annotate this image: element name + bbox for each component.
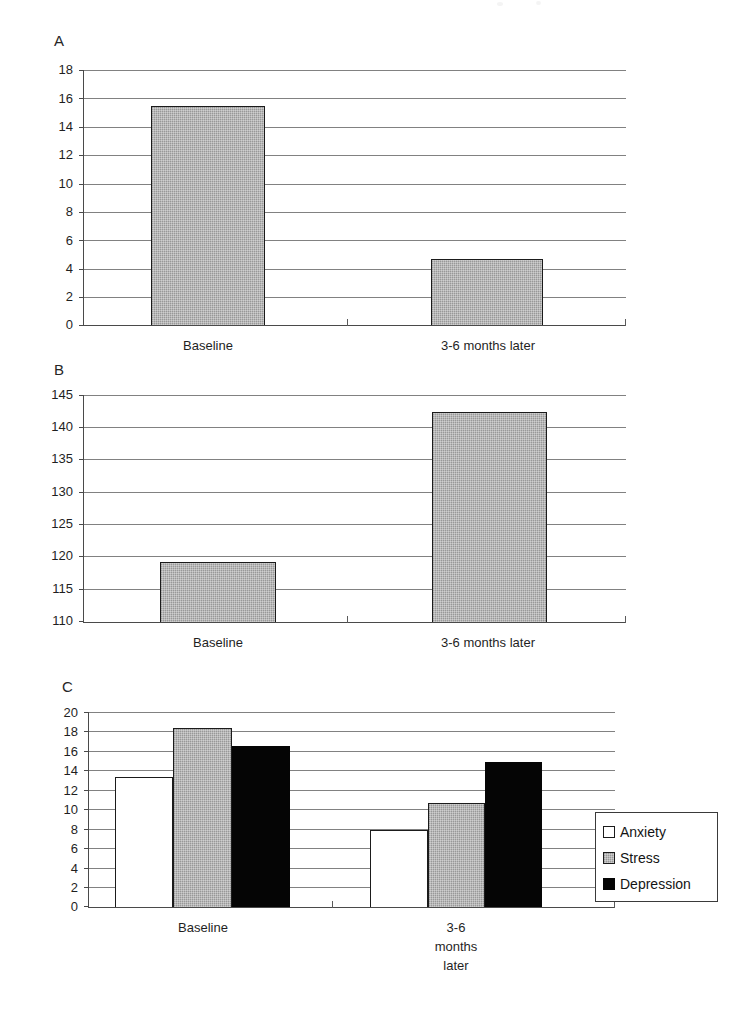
y-tick-label: 20 [40,706,78,719]
panel-c-plot-area: 20 18 16 14 12 10 8 6 4 2 0 Baseline 3-6 [0,0,750,1018]
y-tick-label: 10 [40,803,78,816]
panel-c-legend: Anxiety Stress Depression [595,812,718,902]
legend-item-anxiety: Anxiety [603,819,709,845]
y-tick [84,731,89,732]
panel-c: C 20 18 16 [0,0,750,1018]
x-category-tick [332,901,333,908]
y-tick [84,712,89,713]
y-tick-label: 2 [40,881,78,894]
legend-item-stress: Stress [603,845,709,871]
gridline [88,751,615,752]
y-tick-label: 18 [40,725,78,738]
x-category-label: 3-6 months later [396,918,516,975]
y-tick-label: 12 [40,784,78,797]
x-category-label: Baseline [143,918,263,937]
bar-panel-c-3-6-months-later-anxiety [370,830,428,908]
y-tick [84,887,89,888]
y-tick [84,751,89,752]
legend-label-stress: Stress [620,851,660,865]
y-tick-label: 16 [40,745,78,758]
y-tick-label: 0 [40,900,78,913]
y-tick-label: 8 [40,823,78,836]
y-tick [84,829,89,830]
bar-panel-c-3-6-months-later-depression [485,762,542,908]
y-tick [84,848,89,849]
legend-label-anxiety: Anxiety [620,825,666,839]
y-tick [84,868,89,869]
bar-panel-c-baseline-stress [173,728,232,908]
legend-swatch-anxiety-icon [603,826,615,838]
legend-item-depression: Depression [603,871,709,897]
y-tick-label: 14 [40,764,78,777]
legend-swatch-depression-icon [603,878,615,890]
y-tick-label: 4 [40,862,78,875]
figure-three-panel-bar-charts: A 18 16 14 [0,0,750,1018]
y-tick [84,809,89,810]
legend-swatch-stress-icon [603,852,615,864]
bar-panel-c-3-6-months-later-stress [428,803,485,908]
y-tick [84,770,89,771]
bar-panel-c-baseline-depression [232,746,290,908]
legend-label-depression: Depression [620,877,691,891]
x-category-tick [614,901,615,908]
y-tick-label: 6 [40,842,78,855]
panel-c-x-axis [88,907,615,908]
gridline [88,712,615,713]
bar-panel-c-baseline-anxiety [115,777,173,908]
y-tick [84,790,89,791]
gridline [88,731,615,732]
